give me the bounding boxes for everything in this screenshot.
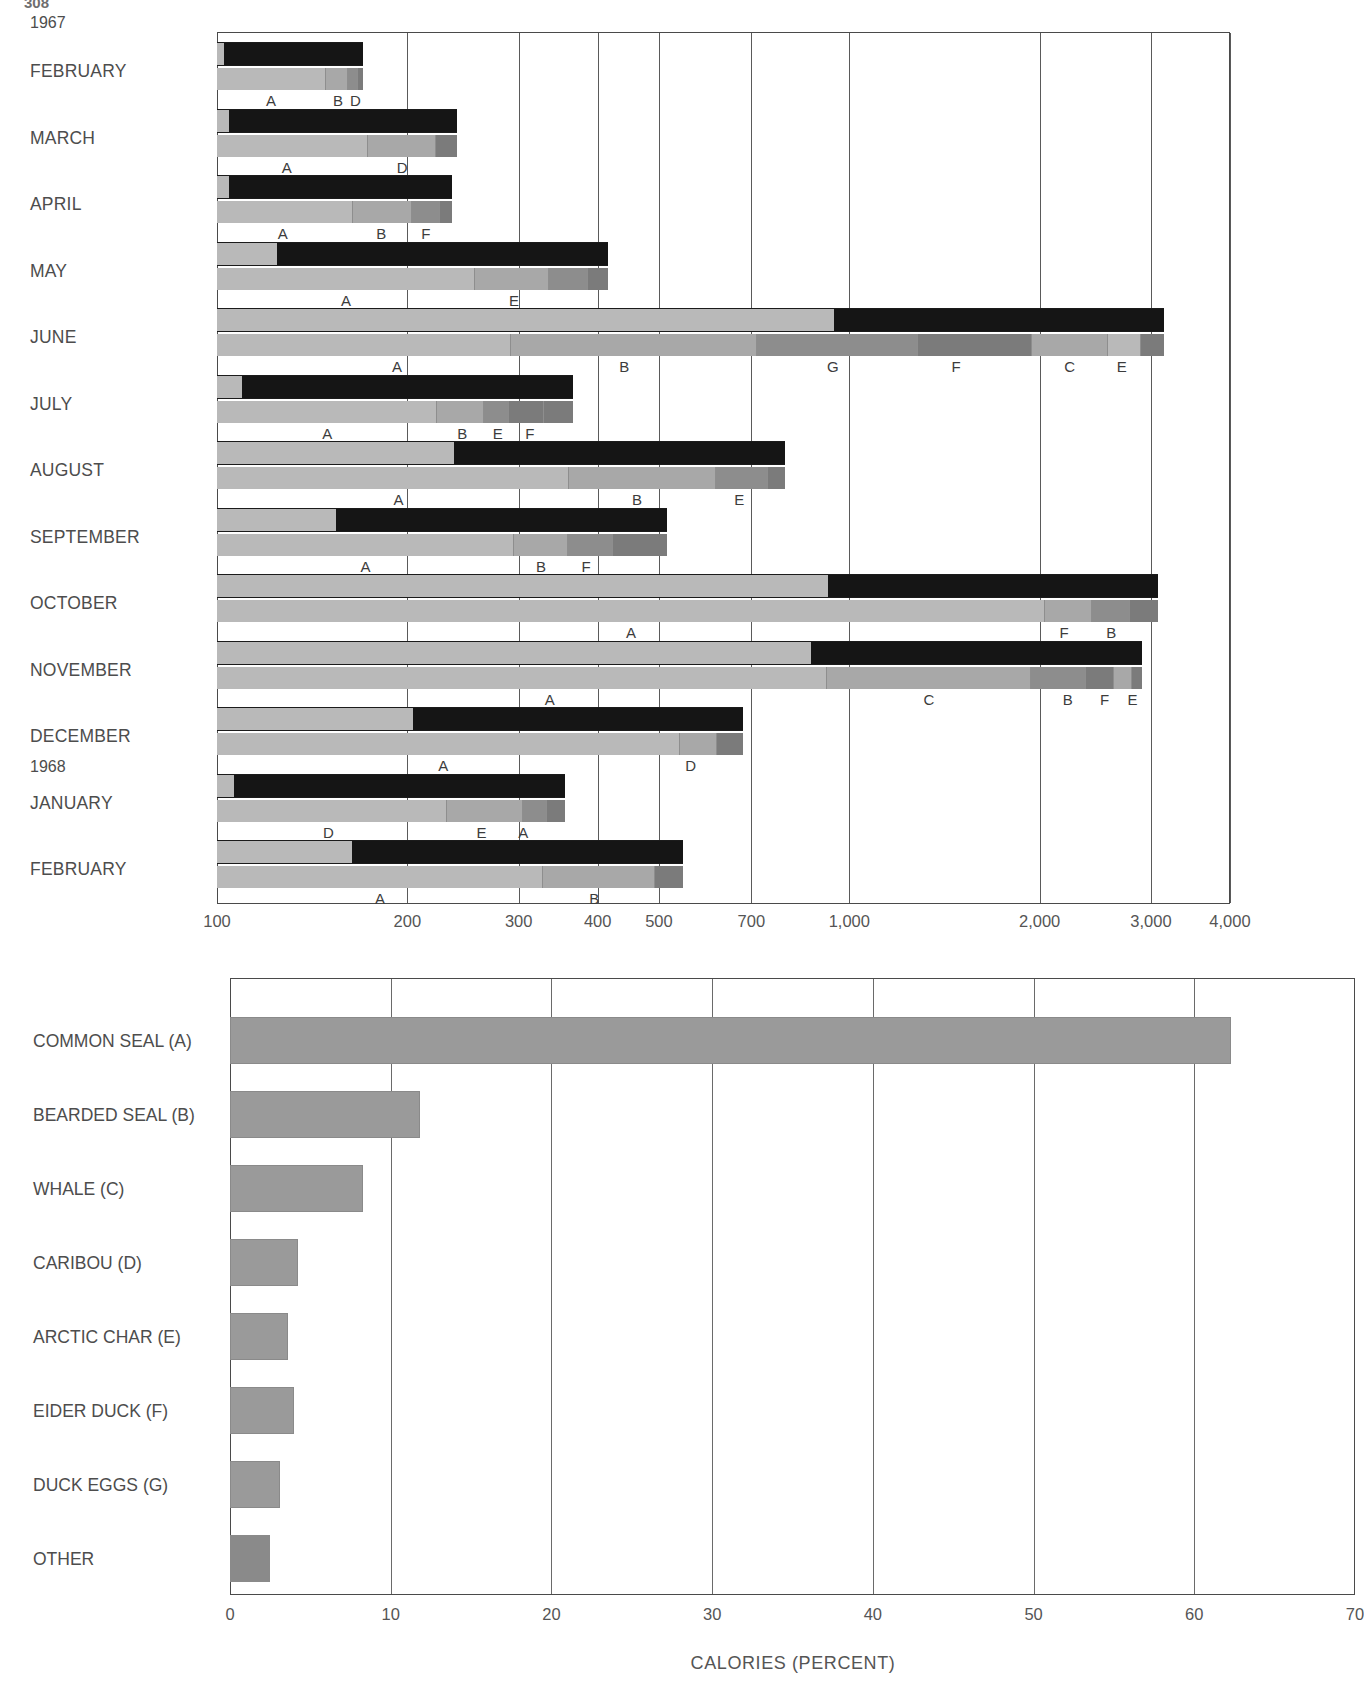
bottom-chart-plot-area xyxy=(230,978,1355,1595)
x-tick-label: 0 xyxy=(225,1605,234,1624)
bar-segment-light xyxy=(217,841,352,863)
species-code-label: B xyxy=(1063,691,1073,708)
kilocalorie-bar xyxy=(217,375,573,399)
x-tick-label: 200 xyxy=(394,912,422,931)
species-code-label: G xyxy=(827,358,839,375)
grid-line xyxy=(551,979,552,1594)
bar-segment-light xyxy=(217,243,277,265)
x-tick-label: 500 xyxy=(645,912,673,931)
bar-segment-light xyxy=(217,309,834,331)
page-number: 308 xyxy=(24,0,49,11)
month-label: JULY xyxy=(30,394,72,415)
category-label: WHALE (C) xyxy=(33,1179,124,1200)
percent-bar xyxy=(230,1165,363,1212)
month-label: SEPTEMBER xyxy=(30,527,140,548)
x-tick-label: 40 xyxy=(864,1605,882,1624)
bar-segment-dark xyxy=(413,708,744,730)
x-tick-label: 300 xyxy=(505,912,533,931)
composition-segment-e xyxy=(1108,334,1141,356)
species-code-label: F xyxy=(951,358,960,375)
month-label: MARCH xyxy=(30,128,95,149)
species-code-label: E xyxy=(1117,358,1127,375)
composition-segment-f xyxy=(509,401,545,423)
composition-segment-a xyxy=(217,534,514,556)
annual-calorie-percent-chart: COMMON SEAL (A)BEARDED SEAL (B)WHALE (C)… xyxy=(0,1005,1359,1696)
category-label: DUCK EGGS (G) xyxy=(33,1475,168,1496)
composition-segment-other xyxy=(358,68,362,90)
composition-segment-other xyxy=(655,866,683,888)
composition-segment-b xyxy=(1092,600,1130,622)
composition-bar xyxy=(217,667,1142,689)
species-code-label: E xyxy=(1127,691,1137,708)
x-tick-label: 700 xyxy=(738,912,766,931)
species-code-label: A xyxy=(394,491,404,508)
x-tick-label: 60 xyxy=(1185,1605,1203,1624)
bar-segment-light xyxy=(217,176,229,198)
composition-bar xyxy=(217,334,1164,356)
species-code-label: B xyxy=(589,890,599,907)
species-code-label: F xyxy=(1060,624,1069,641)
composition-segment-a xyxy=(217,733,680,755)
composition-segment-a xyxy=(217,135,368,157)
composition-segment-a xyxy=(217,334,511,356)
composition-segment-f xyxy=(918,334,1032,356)
percent-bar xyxy=(230,1387,294,1434)
grid-line xyxy=(1194,979,1195,1594)
composition-segment-a xyxy=(217,667,827,689)
bar-segment-light xyxy=(217,376,242,398)
composition-segment-other xyxy=(1130,600,1158,622)
composition-bar xyxy=(217,467,785,489)
category-label: ARCTIC CHAR (E) xyxy=(33,1327,181,1348)
composition-segment-d xyxy=(368,135,435,157)
bar-segment-light xyxy=(217,509,336,531)
composition-segment-f xyxy=(412,201,440,223)
kilocalorie-bar xyxy=(217,774,565,798)
percent-bar xyxy=(230,1239,298,1286)
composition-segment-other xyxy=(613,534,667,556)
composition-segment-other xyxy=(1141,334,1165,356)
composition-segment-f xyxy=(1086,667,1114,689)
bar-segment-dark xyxy=(352,841,683,863)
x-tick-label: 10 xyxy=(382,1605,400,1624)
kilocalorie-bar xyxy=(217,242,608,266)
species-code-label: B xyxy=(457,425,467,442)
species-code-label: D xyxy=(397,159,408,176)
composition-segment-a xyxy=(523,800,547,822)
x-tick-label: 30 xyxy=(703,1605,721,1624)
composition-bar xyxy=(217,800,565,822)
bar-segment-light xyxy=(217,110,229,132)
composition-segment-a xyxy=(217,201,353,223)
composition-bar xyxy=(217,866,683,888)
composition-segment-d xyxy=(348,68,358,90)
category-label: COMMON SEAL (A) xyxy=(33,1031,192,1052)
bar-segment-dark xyxy=(828,575,1159,597)
composition-segment-d xyxy=(217,800,447,822)
category-label: BEARDED SEAL (B) xyxy=(33,1105,195,1126)
composition-bar xyxy=(217,733,743,755)
composition-segment-a xyxy=(217,68,326,90)
bar-segment-dark xyxy=(277,243,608,265)
composition-segment-g xyxy=(757,334,918,356)
species-code-label: A xyxy=(545,691,555,708)
bar-segment-light xyxy=(217,575,828,597)
species-code-label: A xyxy=(518,824,528,841)
grid-line xyxy=(873,979,874,1594)
percent-bar xyxy=(230,1461,280,1508)
percent-bar xyxy=(230,1313,288,1360)
species-code-label: F xyxy=(581,558,590,575)
species-code-label: A xyxy=(626,624,636,641)
species-code-label: F xyxy=(1100,691,1109,708)
percent-bar xyxy=(230,1017,1231,1064)
month-label: OCTOBER xyxy=(30,593,118,614)
year-label: 1967 xyxy=(30,14,66,32)
composition-segment-b xyxy=(543,866,655,888)
species-code-label: E xyxy=(493,425,503,442)
month-label: FEBRUARY xyxy=(30,61,127,82)
composition-segment-d xyxy=(680,733,717,755)
bar-segment-dark xyxy=(234,775,565,797)
composition-segment-e xyxy=(475,268,549,290)
x-tick-label: 4,000 xyxy=(1209,912,1250,931)
grid-line xyxy=(849,33,850,903)
month-label: MAY xyxy=(30,261,67,282)
species-code-label: E xyxy=(509,292,519,309)
